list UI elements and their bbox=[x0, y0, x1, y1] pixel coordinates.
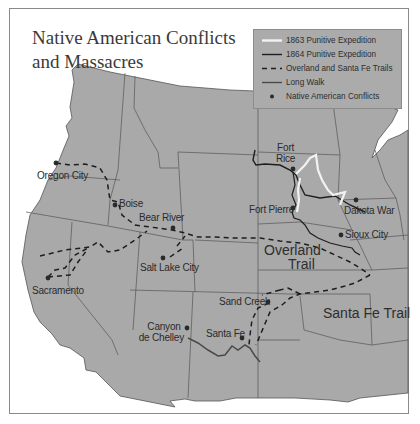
marker-boise bbox=[113, 203, 118, 208]
label-oregon-city: Oregon City bbox=[37, 170, 88, 181]
dashed-line-icon bbox=[261, 62, 283, 75]
dot-marker-icon bbox=[261, 90, 283, 103]
gray-line-icon bbox=[261, 76, 283, 89]
label-sand-creek: Sand Creek bbox=[219, 296, 270, 307]
marker-canyon-de-chelley bbox=[185, 326, 190, 331]
legend-label: Overland and Santa Fe Trails bbox=[286, 62, 393, 75]
label-santa-fe: Santa Fe bbox=[206, 328, 245, 339]
marker-fort-rice bbox=[291, 167, 296, 172]
label-fort-rice: Fort Rice bbox=[276, 142, 295, 164]
legend-label: 1864 Punitive Expedition bbox=[286, 48, 376, 61]
marker-oregon-city bbox=[54, 161, 59, 166]
label-fort-rice-line2: Rice bbox=[276, 153, 295, 164]
label-fort-rice-line1: Fort bbox=[276, 142, 295, 153]
label-canyon-line1: Canyon bbox=[144, 321, 184, 332]
black-line-icon bbox=[261, 48, 283, 61]
marker-salt-lake-city bbox=[161, 256, 166, 261]
legend-item-conflicts: Native American Conflicts bbox=[254, 90, 401, 103]
label-bear-river: Bear River bbox=[139, 212, 184, 223]
legend-item-1864: 1864 Punitive Expedition bbox=[254, 48, 401, 61]
legend-label: 1863 Punitive Expedition bbox=[286, 34, 376, 47]
marker-dakota-war bbox=[354, 198, 359, 203]
legend-item-long-walk: Long Walk bbox=[254, 76, 401, 89]
map-title-line2: and Massacres bbox=[32, 50, 242, 74]
label-salt-lake-city: Salt Lake City bbox=[140, 262, 199, 273]
label-fort-pierre: Fort Pierre bbox=[249, 204, 294, 215]
white-line-icon bbox=[261, 34, 283, 47]
map-title-line1: Native American Conflicts bbox=[32, 26, 242, 50]
label-canyon-de-chelley: Canyon de Chelley bbox=[144, 321, 184, 343]
label-santa-fe-trail: Santa Fe Trail bbox=[323, 306, 410, 320]
label-canyon-line2: de Chelley bbox=[138, 332, 184, 343]
label-sioux-city: Sioux City bbox=[345, 229, 388, 240]
marker-sioux-city bbox=[339, 233, 344, 238]
label-sacramento: Sacramento bbox=[32, 285, 84, 296]
label-dakota-war: Dakota War bbox=[344, 205, 394, 216]
legend: 1863 Punitive Expedition 1864 Punitive E… bbox=[253, 29, 402, 109]
map-title: Native American Conflicts and Massacres bbox=[32, 26, 242, 74]
marker-bear-river bbox=[171, 226, 176, 231]
label-overland-line1: Overland bbox=[264, 243, 321, 257]
label-overland-trail: Overland Trail bbox=[264, 243, 321, 271]
legend-label: Long Walk bbox=[286, 76, 324, 89]
label-overland-line2: Trail bbox=[282, 257, 321, 271]
label-boise: Boise bbox=[119, 198, 143, 209]
legend-item-trails: Overland and Santa Fe Trails bbox=[254, 62, 401, 75]
marker-sacramento bbox=[46, 276, 51, 281]
legend-item-1863: 1863 Punitive Expedition bbox=[254, 34, 401, 47]
legend-label: Native American Conflicts bbox=[286, 90, 379, 103]
